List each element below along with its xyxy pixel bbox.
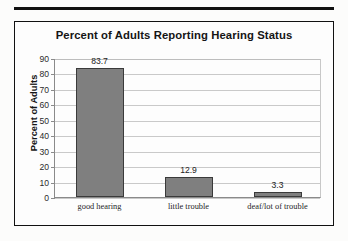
x-axis-category-label: deaf/lot of trouble	[247, 202, 307, 211]
y-axis-tick-label: 30	[39, 147, 49, 157]
y-axis-tick-label: 20	[39, 162, 49, 172]
top-horizontal-rule	[14, 7, 334, 10]
y-axis-title: Percent of Adults	[29, 58, 39, 168]
x-axis-category-label: little trouble	[168, 202, 209, 211]
y-axis-tick-label: 50	[39, 116, 49, 126]
bar	[76, 68, 124, 197]
y-axis-tick-label: 0	[44, 193, 49, 203]
bar-value-label: 83.7	[91, 56, 108, 66]
bar-value-label: 3.3	[272, 180, 284, 190]
y-axis-tick	[51, 198, 55, 199]
y-axis-tick-label: 10	[39, 178, 49, 188]
plot-area: 0102030405060708090 83.7good hearing12.9…	[54, 59, 321, 198]
chart-container: Percent of Adults Reporting Hearing Stat…	[14, 21, 334, 226]
y-axis-tick-label: 70	[39, 85, 49, 95]
bar-value-label: 12.9	[180, 165, 197, 175]
page-background: Percent of Adults Reporting Hearing Stat…	[0, 0, 348, 241]
x-axis-category-label: good hearing	[78, 202, 122, 211]
chart-title: Percent of Adults Reporting Hearing Stat…	[15, 29, 333, 41]
bar-series: 83.7good hearing12.9little trouble3.3dea…	[55, 59, 320, 197]
y-axis-tick-label: 90	[39, 54, 49, 64]
y-axis-tick-label: 60	[39, 100, 49, 110]
bar	[165, 177, 213, 197]
bar	[254, 192, 302, 197]
y-axis-tick-label: 40	[39, 131, 49, 141]
y-axis-tick-label: 80	[39, 69, 49, 79]
gridline	[55, 198, 320, 199]
